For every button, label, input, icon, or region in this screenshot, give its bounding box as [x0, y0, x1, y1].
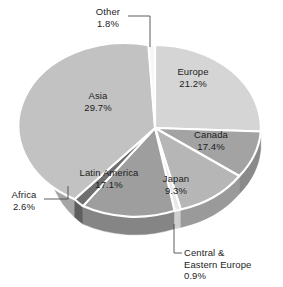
slice-label-canada-value: 17.4%: [180, 141, 242, 153]
slice-label-canada-name: Canada: [180, 129, 242, 141]
slice-label-latin-america-name: Latin America: [62, 167, 156, 179]
slice-label-asia-value: 29.7%: [67, 102, 129, 114]
callout-label-africa: Africa 2.6%: [4, 189, 44, 212]
slice-label-europe-value: 21.2%: [163, 78, 223, 90]
callout-label-other-value: 1.8%: [88, 18, 128, 30]
callout-label-cee-name2: Eastern Europe: [184, 259, 280, 271]
slice-label-latin-america-value: 17.1%: [62, 179, 156, 191]
side-wall-central-eastern-europe: [175, 210, 181, 229]
callout-label-other-name: Other: [88, 6, 128, 18]
callout-label-africa-value: 2.6%: [4, 201, 44, 213]
callout-label-central-eastern-europe: Central & Eastern Europe 0.9%: [184, 247, 280, 282]
callout-label-cee-value: 0.9%: [184, 270, 280, 282]
slice-label-europe-name: Europe: [163, 66, 223, 78]
slice-label-canada: Canada 17.4%: [180, 129, 242, 152]
slice-label-latin-america: Latin America 17.1%: [62, 167, 156, 190]
pie-chart-figure: Europe 21.2% Canada 17.4% Japan 9.3% Lat…: [0, 0, 283, 287]
callout-label-cee-name: Central &: [184, 247, 280, 259]
slice-label-japan-name: Japan: [152, 173, 200, 185]
slice-label-japan-value: 9.3%: [152, 185, 200, 197]
slice-label-asia: Asia 29.7%: [67, 90, 129, 113]
slice-label-japan: Japan 9.3%: [152, 173, 200, 196]
slice-label-asia-name: Asia: [67, 90, 129, 102]
callout-label-africa-name: Africa: [4, 189, 44, 201]
slice-label-europe: Europe 21.2%: [163, 66, 223, 89]
callout-label-other: Other 1.8%: [88, 6, 128, 29]
